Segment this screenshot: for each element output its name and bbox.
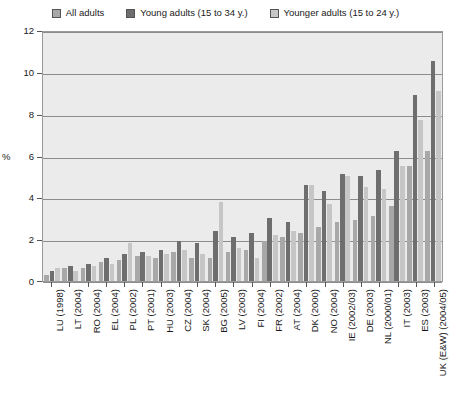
bar [249,233,254,281]
bar [327,204,332,281]
bar [159,250,164,281]
x-label-cell: SK (2004) [188,289,206,401]
x-tick-mark [51,282,52,287]
bar [195,243,200,281]
x-label-cell: FI (2004) [243,289,261,401]
x-tick-cell [425,282,443,287]
x-tick-cell [279,282,297,287]
y-tick-label: 2 [29,235,34,245]
x-tick-mark [325,282,326,287]
x-label-cell: EL (2004) [97,289,115,401]
x-tick-cell [261,282,279,287]
x-tick-mark [343,282,344,287]
bar [340,174,345,281]
x-tick-cell [297,282,315,287]
x-tick-mark [252,282,253,287]
x-label-cell: UK (E&W) (2004/05) [425,289,443,401]
bar [50,271,55,281]
x-tick-mark [416,282,417,287]
bar [371,216,376,281]
bar-group [370,32,388,281]
x-label-cell: PT (2001) [133,289,151,401]
x-label-cell: PL (2002) [115,289,133,401]
bars-layer [43,32,442,281]
x-label-cell: HU (2003) [151,289,169,401]
bar [146,256,151,281]
bar [431,61,436,281]
x-tick-cell [388,282,406,287]
x-tick-cell [352,282,370,287]
x-tick-label: UK (E&W) (2004/05) [438,289,448,376]
x-tick-mark [306,282,307,287]
bar [86,264,91,281]
bar [110,264,115,281]
legend-item: All adults [52,8,105,18]
x-tick-mark [161,282,162,287]
x-label-cell: NL (2000/01) [370,289,388,401]
x-tick-cell [151,282,169,287]
bar-group [116,32,134,281]
x-tick-mark [215,282,216,287]
bar [219,202,224,281]
x-tick-cell [42,282,60,287]
bar [99,262,104,281]
x-label-cell: IT (2003) [388,289,406,401]
x-tick-cell [243,282,261,287]
x-label-cell: AT (2004) [279,289,297,401]
bar [171,252,176,281]
bar [55,268,60,281]
x-label-cell: LT (2004) [60,289,78,401]
x-label-cell: LV (2003) [224,289,242,401]
x-tick-mark [434,282,435,287]
bar-group [297,32,315,281]
bar [177,241,182,281]
x-label-cell: ES (2003) [407,289,425,401]
bar [117,260,122,281]
y-tick-label: 0 [29,277,34,287]
bar-group [61,32,79,281]
x-tick-cell [78,282,96,287]
legend-label: Young adults (15 to 34 y.) [140,8,247,18]
bar [267,218,272,281]
y-axis: % 024681012 [0,31,42,282]
x-tick-mark [88,282,89,287]
bar [237,248,242,281]
x-tick-cell [133,282,151,287]
bar [44,275,49,281]
x-label-cell: IE (2002/03) [334,289,352,401]
bar-group [333,32,351,281]
x-tick-mark [270,282,271,287]
bar [92,266,97,281]
bar [364,187,369,281]
x-tick-cell [115,282,133,287]
bar [164,254,169,281]
bar-group [79,32,97,281]
bar [104,258,109,281]
x-label-cell: DE (2003) [352,289,370,401]
bar-group [97,32,115,281]
bar [400,166,405,281]
y-tick-label: 6 [29,152,34,162]
x-axis-labels: LU (1998)LT (2004)RO (2004)EL (2004)PL (… [42,289,443,401]
legend-label: Younger adults (15 to 24 y.) [284,8,400,18]
x-tick-mark [142,282,143,287]
x-tick-mark [106,282,107,287]
legend-item: Young adults (15 to 34 y.) [126,8,247,18]
bar [376,170,381,281]
x-tick-cell [188,282,206,287]
bar [322,191,327,281]
bar-group [351,32,369,281]
bar-group [388,32,406,281]
x-tick-cell [316,282,334,287]
x-label-cell: CZ (2004) [170,289,188,401]
bar [291,231,296,281]
x-tick-mark [361,282,362,287]
bar [244,250,249,281]
bar [73,271,78,281]
bar [353,220,358,281]
x-tick-cell [334,282,352,287]
bar [335,222,340,281]
legend-swatch-icon [270,9,279,18]
bar [135,256,140,281]
x-tick-mark [124,282,125,287]
